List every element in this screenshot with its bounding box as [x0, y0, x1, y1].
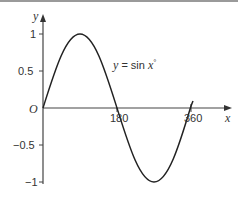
- eq-mid: = sin: [118, 59, 148, 71]
- sine-chart: y x O 1 0.5 −0.5 −1 180 360 y = sin x°: [0, 0, 244, 202]
- equation-label: y = sin x°: [112, 58, 157, 72]
- origin-label: O: [29, 102, 38, 116]
- x-tick-label-360: 360: [184, 112, 202, 124]
- eq-deg: °: [153, 58, 156, 67]
- y-axis-label: y: [32, 9, 39, 23]
- y-tick-label-m1: −1: [25, 176, 38, 188]
- y-tick-label-1: 1: [30, 28, 36, 40]
- y-tick-label-05: 0.5: [18, 65, 33, 77]
- x-axis-label: x: [224, 111, 231, 125]
- x-tick-label-180: 180: [110, 112, 128, 124]
- y-tick-label-m05: −0.5: [13, 139, 35, 151]
- y-axis-arrow-icon: [40, 14, 46, 22]
